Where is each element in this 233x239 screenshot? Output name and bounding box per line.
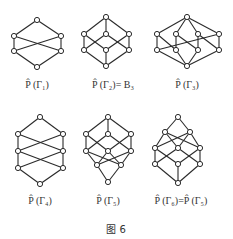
lattice-node bbox=[94, 162, 99, 167]
lattice-node bbox=[184, 14, 189, 19]
lattice-node bbox=[175, 114, 180, 119]
lattice-g5 bbox=[83, 114, 133, 184]
lattice-edge bbox=[108, 117, 131, 134]
lattice-node bbox=[175, 161, 180, 166]
lattice-node bbox=[152, 145, 157, 150]
lattice-node bbox=[216, 31, 221, 36]
label-g4: P̂ (Γ₄) bbox=[28, 195, 52, 206]
lattice-edge bbox=[37, 20, 61, 36]
label-g5: P̂ (Γ₅) bbox=[96, 195, 120, 206]
lattice-node bbox=[15, 148, 20, 153]
label-g1: P̂ (Γ₁) bbox=[25, 79, 49, 90]
lattice-node bbox=[197, 145, 202, 150]
lattice-node bbox=[173, 47, 178, 52]
lattice-node bbox=[105, 114, 110, 119]
lattice-edge bbox=[40, 168, 63, 184]
lattice-edge bbox=[155, 164, 178, 183]
lattice-node bbox=[105, 179, 110, 184]
lattice-edge bbox=[86, 117, 108, 134]
lattice-node bbox=[152, 161, 157, 166]
lattice-node bbox=[81, 31, 86, 36]
lattice-node bbox=[175, 145, 180, 150]
label-g2: P̂ (Γ₂)= B₃ bbox=[92, 79, 134, 90]
lattice-node bbox=[11, 48, 16, 53]
lattice-edge bbox=[108, 165, 121, 182]
lattice-node bbox=[58, 48, 63, 53]
label-g3: P̂ (Γ₃) bbox=[175, 79, 199, 90]
lattice-node bbox=[11, 33, 16, 38]
lattice-node bbox=[173, 31, 178, 36]
lattice-edge bbox=[18, 117, 40, 134]
lattice-edge bbox=[40, 117, 63, 134]
lattice-node bbox=[187, 129, 192, 134]
lattice-g4 bbox=[15, 114, 65, 186]
lattice-node bbox=[154, 47, 159, 52]
lattice-node bbox=[103, 31, 108, 36]
lattice-node bbox=[37, 181, 42, 186]
lattice-node bbox=[195, 47, 200, 52]
lattice-node bbox=[37, 114, 42, 119]
lattice-g2-b3 bbox=[81, 14, 131, 68]
lattice-edge bbox=[157, 50, 187, 66]
lattice-node bbox=[154, 31, 159, 36]
lattice-node bbox=[15, 165, 20, 170]
lattice-node bbox=[60, 165, 65, 170]
lattice-node bbox=[34, 17, 39, 22]
lattice-node bbox=[83, 131, 88, 136]
lattice-node bbox=[60, 131, 65, 136]
lattice-edge bbox=[84, 17, 106, 34]
lattice-node bbox=[103, 47, 108, 52]
lattice-g3 bbox=[154, 14, 221, 68]
lattice-node bbox=[15, 131, 20, 136]
lattice-g1 bbox=[11, 17, 63, 69]
lattice-node bbox=[126, 31, 131, 36]
lattice-node bbox=[195, 31, 200, 36]
figure-caption: 图 6 bbox=[106, 221, 126, 236]
lattice-node bbox=[162, 129, 167, 134]
lattice-node bbox=[126, 47, 131, 52]
lattice-node bbox=[105, 148, 110, 153]
lattice-edge bbox=[157, 17, 187, 34]
lattice-edge bbox=[187, 50, 219, 66]
lattice-node bbox=[128, 131, 133, 136]
lattice-edge bbox=[106, 17, 129, 34]
lattice-node bbox=[105, 131, 110, 136]
lattice-edge bbox=[178, 164, 200, 183]
lattice-edge bbox=[84, 50, 106, 66]
lattice-node bbox=[175, 180, 180, 185]
lattice-node bbox=[60, 148, 65, 153]
lattice-node bbox=[103, 14, 108, 19]
lattice-edge bbox=[187, 17, 219, 34]
lattice-node bbox=[34, 64, 39, 69]
lattice-g6 bbox=[152, 114, 202, 185]
lattice-node bbox=[184, 63, 189, 68]
lattice-edge bbox=[106, 50, 129, 66]
lattice-node bbox=[81, 47, 86, 52]
lattice-node bbox=[103, 63, 108, 68]
lattice-node bbox=[118, 162, 123, 167]
lattice-node bbox=[128, 148, 133, 153]
lattice-edge bbox=[14, 20, 37, 36]
label-g6: P̂ (Γ₆)=P̂ (Γ₅) bbox=[155, 195, 208, 206]
lattice-node bbox=[216, 47, 221, 52]
lattice-edge bbox=[14, 51, 37, 67]
lattice-node bbox=[58, 33, 63, 38]
lattice-node bbox=[83, 148, 88, 153]
lattice-edge bbox=[37, 51, 61, 67]
lattice-edge bbox=[18, 168, 40, 184]
lattice-node bbox=[197, 161, 202, 166]
